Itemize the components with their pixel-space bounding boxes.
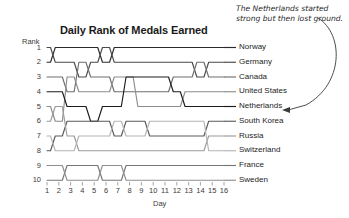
y-tick-label: 8: [21, 146, 41, 155]
series-line: [47, 166, 224, 181]
x-tick-label: 8: [124, 186, 136, 195]
y-tick-label: 4: [21, 87, 41, 96]
x-tick-label: 2: [53, 186, 65, 195]
x-tick-label: 10: [147, 186, 159, 195]
series-label-switzerland: Switzerland: [239, 145, 280, 154]
x-tick-label: 12: [171, 186, 183, 195]
y-tick-label: 1: [21, 43, 41, 52]
chart-canvas: Daily Rank of Medals Earned Rank Day 123…: [0, 0, 349, 218]
x-tick-label: 7: [112, 186, 124, 195]
series-label-sweden: Sweden: [239, 175, 268, 184]
x-tick-label: 13: [183, 186, 195, 195]
series-line: [47, 77, 224, 121]
series-label-russia: Russia: [239, 131, 263, 140]
x-tick-label: 3: [65, 186, 77, 195]
y-tick-label: 3: [21, 72, 41, 81]
y-tick-label: 5: [21, 102, 41, 111]
annotation-arrow: [288, 18, 336, 110]
x-tick-label: 15: [206, 186, 218, 195]
x-tick-label: 14: [194, 186, 206, 195]
x-tick-label: 11: [159, 186, 171, 195]
y-tick-label: 10: [21, 175, 41, 184]
y-tick-label: 7: [21, 131, 41, 140]
x-tick-label: 1: [41, 186, 53, 195]
series-line: [47, 166, 224, 181]
x-tick-label: 6: [100, 186, 112, 195]
annotation-text: The Netherlands started strong but then …: [236, 4, 344, 24]
series-label-united-states: United States: [239, 86, 287, 95]
series-label-france: France: [239, 160, 264, 169]
series-label-norway: Norway: [239, 42, 266, 51]
series-line: [47, 48, 224, 63]
x-tick-label: 4: [76, 186, 88, 195]
series-label-canada: Canada: [239, 72, 267, 81]
series-label-germany: Germany: [239, 57, 272, 66]
y-tick-label: 6: [21, 116, 41, 125]
x-tick-label: 16: [218, 186, 230, 195]
x-tick-label: 5: [88, 186, 100, 195]
series-line: [47, 77, 224, 121]
y-tick-label: 9: [21, 161, 41, 170]
y-tick-label: 2: [21, 57, 41, 66]
series-line: [47, 107, 224, 151]
x-tick-label: 9: [135, 186, 147, 195]
series-label-south-korea: South Korea: [239, 116, 283, 125]
series-label-netherlands: Netherlands: [239, 101, 282, 110]
annotation-arrowhead: [282, 107, 290, 113]
